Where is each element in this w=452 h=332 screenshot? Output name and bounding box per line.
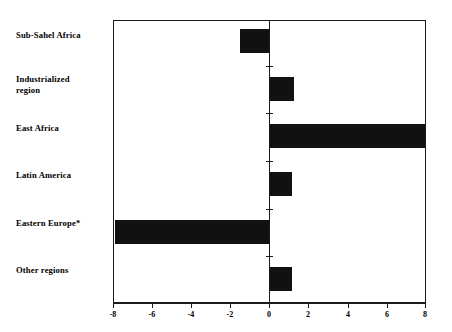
bar-latin-america [270,172,292,196]
bar-industrialized-region [270,77,294,101]
x-axis-tick-label: 0 [267,310,271,319]
x-axis-tick-label: 2 [306,310,310,319]
bar-other-regions [270,267,292,291]
zero-axis-tick [266,209,273,210]
x-axis-tick [387,303,388,308]
x-axis-tick-label: 8 [423,310,427,319]
zero-axis-tick [266,161,273,162]
x-axis-tick-label: 6 [385,310,389,319]
x-axis-tick-label: -2 [226,310,233,319]
x-axis-tick [308,303,309,308]
x-axis-tick [425,303,426,308]
x-axis-tick-label: -4 [187,310,194,319]
category-label-latin-america: Latin America [16,170,114,181]
category-label-industrialized-region: Industrialized region [16,74,114,95]
x-axis-tick [348,303,349,308]
x-axis-tick [230,303,231,308]
x-axis-tick [269,303,270,308]
x-axis-tick [113,303,114,308]
category-label-other-regions: Other regions [16,265,114,276]
category-label-east-africa: East Africa [16,123,114,134]
x-axis-tick-label: 4 [346,310,350,319]
chart-figure: Sub-Sahel Africa Industrialized region E… [0,0,452,332]
zero-axis-tick [266,66,273,67]
x-axis-tick-label: -6 [148,310,155,319]
x-axis-tick [152,303,153,308]
bar-sub-sahel-africa [240,29,269,53]
category-label-eastern-europe: Eastern Europe* [16,218,114,229]
zero-axis-tick [266,113,273,114]
x-axis-tick [191,303,192,308]
x-axis-tick-label: -8 [109,310,116,319]
plot-area [113,20,426,303]
category-label-sub-sahel-africa: Sub-Sahel Africa [16,30,114,41]
zero-axis-tick [266,256,273,257]
bar-east-africa [270,124,425,148]
bar-eastern-europe [115,220,269,244]
